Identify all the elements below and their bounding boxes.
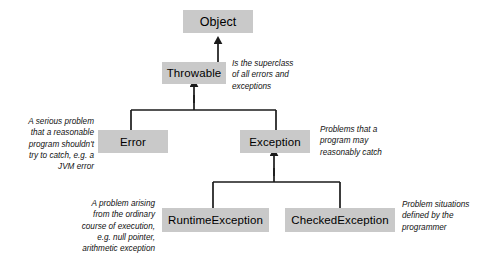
class-box-checkedexception-label: CheckedException: [291, 214, 389, 226]
class-box-exception[interactable]: Exception: [240, 130, 310, 153]
class-box-runtimeexception-label: RuntimeException: [168, 214, 263, 226]
class-box-exception-label: Exception: [249, 136, 300, 148]
class-box-object-label: Object: [200, 15, 237, 29]
annotation-checkedexception: Problem situations defined by the progra…: [402, 199, 479, 233]
class-box-checkedexception[interactable]: CheckedException: [285, 208, 395, 232]
edge-subexceptions-to-exception: [213, 155, 340, 208]
class-box-error[interactable]: Error: [98, 130, 168, 153]
class-box-throwable[interactable]: Throwable: [162, 62, 226, 84]
annotation-error: A serious problem that a reasonable prog…: [8, 116, 94, 172]
annotation-exception: Problems that a program may reasonably c…: [320, 124, 420, 158]
class-box-runtimeexception[interactable]: RuntimeException: [162, 208, 269, 232]
annotation-runtimeexception: A problem arising from the ordinary cour…: [60, 198, 155, 254]
annotation-throwable: Is the superclass of all errors and exce…: [232, 58, 337, 92]
class-hierarchy-diagram: Object Throwable Error Exception Runtime…: [0, 0, 479, 274]
class-box-error-label: Error: [120, 136, 146, 148]
edge-error-exception-to-throwable: [131, 86, 276, 130]
class-box-throwable-label: Throwable: [167, 67, 222, 79]
class-box-object[interactable]: Object: [183, 10, 253, 33]
